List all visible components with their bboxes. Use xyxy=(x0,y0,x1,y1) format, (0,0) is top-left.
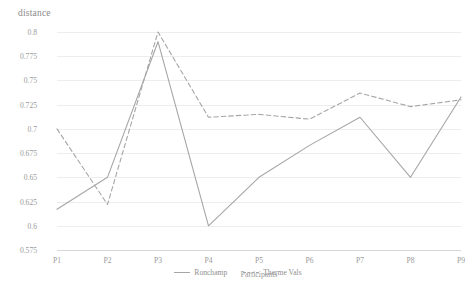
y-axis-tick-label: 0.7 xyxy=(0,124,37,133)
legend-item[interactable]: Therme Vals xyxy=(243,268,301,277)
legend-swatch-icon xyxy=(243,272,259,273)
series-line-ronchamp xyxy=(57,42,461,226)
x-axis-tick-label: P9 xyxy=(457,256,465,265)
x-axis-line xyxy=(57,250,461,251)
y-axis-tick-label: 0.625 xyxy=(0,197,37,206)
x-axis-tick-label: P4 xyxy=(204,256,212,265)
series-line-therme-vals xyxy=(57,32,461,204)
x-axis-tick-label: P6 xyxy=(305,256,313,265)
x-axis-tick-label: P7 xyxy=(356,256,364,265)
x-axis-tick-label: P2 xyxy=(103,256,111,265)
plot-area: 0.5750.60.6250.650.6750.70.7250.750.7750… xyxy=(57,32,461,250)
y-axis-tick-label: 0.8 xyxy=(0,28,37,37)
x-axis-tick-label: P1 xyxy=(53,256,61,265)
y-axis-tick-label: 0.675 xyxy=(0,149,37,158)
x-axis-tick-label: P5 xyxy=(255,256,263,265)
y-axis-tick-label: 0.6 xyxy=(0,221,37,230)
y-axis-tick-label: 0.725 xyxy=(0,100,37,109)
line-chart: distance 0.5750.60.6250.650.6750.70.7250… xyxy=(0,0,476,300)
y-axis-tick-label: 0.65 xyxy=(0,173,37,182)
chart-legend: RonchampTherme Vals xyxy=(0,268,476,277)
x-axis-tick-label: P8 xyxy=(406,256,414,265)
legend-label: Therme Vals xyxy=(263,268,301,277)
x-axis-tick-label: P3 xyxy=(154,256,162,265)
legend-item[interactable]: Ronchamp xyxy=(174,268,227,277)
y-axis-tick-label: 0.575 xyxy=(0,246,37,255)
y-axis-title: distance xyxy=(18,8,51,18)
y-axis-tick-label: 0.75 xyxy=(0,76,37,85)
y-axis-tick-label: 0.775 xyxy=(0,52,37,61)
legend-label: Ronchamp xyxy=(194,268,227,277)
legend-swatch-icon xyxy=(174,272,190,273)
series-layer xyxy=(57,32,461,250)
